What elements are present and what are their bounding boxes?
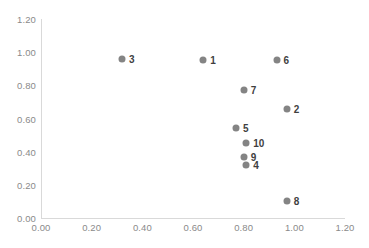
data-point-label-5: 5: [243, 123, 249, 134]
data-point-label-2: 2: [294, 103, 300, 114]
data-point-label-8: 8: [294, 196, 300, 207]
data-point-10[interactable]: [243, 140, 250, 147]
data-point-label-7: 7: [251, 85, 257, 96]
y-tick-label: 0.40: [4, 146, 36, 157]
x-tick-label: 0.40: [122, 222, 162, 233]
y-tick-label: 1.20: [4, 14, 36, 25]
x-tick-label: 0.80: [224, 222, 264, 233]
x-tick-label: 1.00: [274, 222, 314, 233]
y-tick-label: 0.20: [4, 179, 36, 190]
plot-area: [41, 19, 345, 218]
data-point-label-1: 1: [210, 55, 216, 66]
x-tick-label: 0.20: [72, 222, 112, 233]
x-tick-label: 1.20: [325, 222, 365, 233]
y-tick-label: 1.00: [4, 47, 36, 58]
data-point-2[interactable]: [283, 105, 290, 112]
y-tick-label: 0.60: [4, 113, 36, 124]
data-point-9[interactable]: [240, 153, 247, 160]
data-point-4[interactable]: [243, 161, 250, 168]
data-point-label-6: 6: [284, 55, 290, 66]
data-point-label-3: 3: [129, 53, 135, 64]
data-point-6[interactable]: [273, 57, 280, 64]
data-point-7[interactable]: [240, 87, 247, 94]
scatter-chart: 0.000.200.400.600.801.001.20 0.000.200.4…: [0, 0, 369, 248]
data-point-label-4: 4: [253, 159, 259, 170]
x-axis-line: [41, 218, 345, 219]
data-point-3[interactable]: [119, 55, 126, 62]
data-point-1[interactable]: [200, 57, 207, 64]
data-point-label-10: 10: [253, 138, 264, 149]
x-tick-label: 0.60: [173, 222, 213, 233]
data-point-8[interactable]: [283, 198, 290, 205]
y-tick-label: 0.80: [4, 80, 36, 91]
data-point-5[interactable]: [233, 125, 240, 132]
x-tick-label: 0.00: [21, 222, 61, 233]
